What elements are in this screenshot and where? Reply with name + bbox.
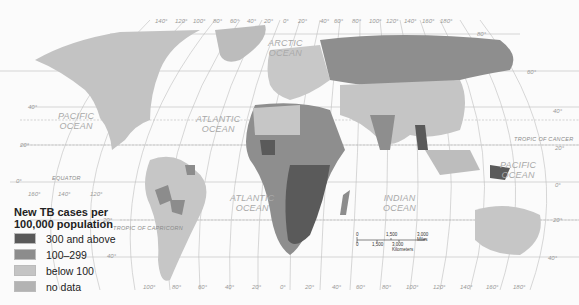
lon-label: 20°	[264, 18, 273, 24]
lat-label: 80°	[477, 31, 486, 37]
lon-label: 40°	[247, 18, 256, 24]
lon-label: 140°	[460, 284, 472, 290]
lon-label: 140°	[58, 191, 70, 197]
lon-label: 180°	[440, 18, 452, 24]
legend-swatch	[14, 281, 36, 292]
lon-label: 60°	[334, 18, 343, 24]
lon-label: 80°	[382, 284, 391, 290]
lon-label: 80°	[352, 18, 361, 24]
lat-label: 20°	[20, 142, 29, 148]
lon-label: 100°	[406, 284, 418, 290]
lat-label: 40°	[548, 255, 557, 261]
scale-km-0: 0	[356, 242, 359, 247]
lon-label: 120°	[175, 18, 187, 24]
lon-label: 40°	[332, 284, 341, 290]
lon-label: 140°	[404, 18, 416, 24]
lon-label: 0°	[280, 284, 286, 290]
atlantic-ocean-north-label: ATLANTICOCEAN	[196, 114, 240, 134]
lon-label: 60°	[198, 284, 207, 290]
lon-label: 120°	[386, 18, 398, 24]
scale-km-3000: 3,000 Kilometers	[392, 242, 413, 252]
lat-label: 20°	[555, 145, 564, 151]
legend-swatch	[14, 265, 36, 276]
legend-swatch	[14, 233, 36, 244]
lat-label: 60°	[527, 69, 536, 75]
lon-label: 140°	[155, 18, 167, 24]
lon-label: 80°	[213, 18, 222, 24]
pacific-ocean-south-label: PACIFICOCEAN	[500, 160, 536, 180]
lon-label: 160°	[422, 18, 434, 24]
atlantic-ocean-south-label: ATLANTICOCEAN	[230, 193, 274, 213]
legend-item-below-100: below 100	[14, 263, 134, 278]
lat-label: 40°	[28, 104, 37, 110]
lon-label: 120°	[433, 284, 445, 290]
arctic-ocean-label: ARCTICOCEAN	[268, 38, 303, 58]
lon-label: 40°	[225, 284, 234, 290]
lon-label: 120°	[90, 191, 102, 197]
lon-label: 20°	[252, 284, 261, 290]
scale-miles-0: 0	[356, 232, 359, 237]
lat-label: 40°	[553, 108, 562, 114]
legend: New TB cases per 100,000 population 300 …	[14, 206, 134, 294]
lon-label: 80°	[172, 284, 181, 290]
lon-label: 160°	[28, 191, 40, 197]
legend-label: no data	[46, 281, 81, 293]
lon-label: 40°	[320, 18, 329, 24]
legend-label: 100–299	[46, 249, 87, 261]
lat-label: 0°	[16, 178, 22, 184]
scale-miles-1500: 1,500	[386, 232, 397, 237]
lon-label: 20°	[298, 18, 307, 24]
lat-label: 0°	[555, 182, 561, 188]
tb-world-map: PACIFICOCEAN PACIFICOCEAN ATLANTICOCEAN …	[0, 0, 579, 305]
lon-label: 160°	[486, 284, 498, 290]
lon-label: 180°	[513, 284, 525, 290]
lon-label: 100°	[193, 18, 205, 24]
lon-label: 100°	[143, 284, 155, 290]
lon-label: 60°	[356, 284, 365, 290]
legend-swatch	[14, 249, 36, 260]
lon-label: 100°	[369, 18, 381, 24]
legend-item-100-299: 100–299	[14, 247, 134, 262]
legend-title: New TB cases per 100,000 population	[14, 206, 134, 230]
legend-label: 300 and above	[46, 233, 115, 245]
lon-label: 0°	[283, 18, 289, 24]
tropic-of-cancer-label: TROPIC OF CANCER	[514, 136, 573, 142]
indian-ocean-label: INDIANOCEAN	[383, 193, 416, 213]
scale-km-1500: 1,500	[372, 242, 383, 247]
legend-item-no-data: no data	[14, 279, 134, 294]
scale-miles-3000: 3,000 Miles	[417, 232, 428, 242]
legend-label: below 100	[46, 265, 94, 277]
lon-label: 60°	[230, 18, 239, 24]
lat-label: 20°	[553, 217, 562, 223]
lon-label: 20°	[305, 284, 314, 290]
pacific-ocean-north-label: PACIFICOCEAN	[58, 111, 94, 131]
equator-label: EQUATOR	[52, 175, 81, 181]
legend-item-300-above: 300 and above	[14, 231, 134, 246]
